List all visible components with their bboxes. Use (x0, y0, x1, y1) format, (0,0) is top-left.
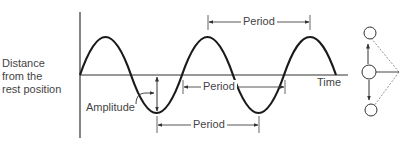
pendulum-bottom-position (365, 104, 377, 116)
pendulum-rest-position (362, 65, 376, 79)
period-label-top: Period (241, 15, 277, 28)
y-axis-label: Distance from the rest position (2, 57, 61, 96)
pendulum-illustration (362, 27, 399, 116)
pendulum-top-position (364, 27, 376, 39)
amplitude-label: Amplitude (86, 101, 135, 114)
period-label-middle: Period (201, 80, 237, 93)
period-label-bottom: Period (191, 118, 227, 131)
x-axis-label: Time (317, 76, 341, 89)
